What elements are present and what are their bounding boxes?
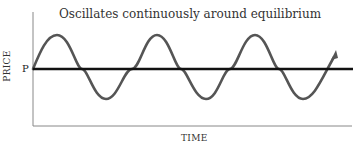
- equilibrium-label: P: [22, 63, 29, 74]
- x-axis-label: TIME: [181, 133, 208, 143]
- chart-title: Oscillates continuously around equilibri…: [0, 7, 364, 21]
- arrowhead-icon: [331, 50, 338, 60]
- chart-canvas: [0, 0, 364, 145]
- price-wave: [33, 35, 334, 99]
- y-axis-label: PRICE: [2, 50, 12, 81]
